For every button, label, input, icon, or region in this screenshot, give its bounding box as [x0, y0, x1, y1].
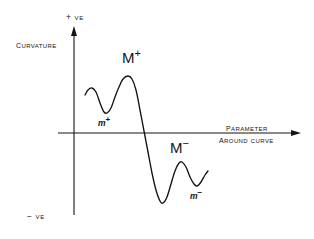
annotation-m-minus-base: m [190, 191, 198, 201]
annotation-m-minus-sign: − [198, 188, 203, 197]
y-axis-positive-label: + ve [66, 13, 84, 22]
y-axis-group [71, 26, 77, 215]
annotation-M-minus-sign: − [183, 137, 189, 149]
y-axis-title: Curvature [16, 39, 57, 50]
curvature-curve [85, 76, 208, 203]
y-axis-negative-label: − ve [27, 212, 45, 221]
annotation-M-plus-sign: + [135, 47, 141, 59]
annotation-m-plus-base: m [98, 118, 106, 128]
y-axis-arrowhead [71, 26, 77, 36]
curvature-chart [0, 0, 314, 239]
annotation-minor-minimum-positive: m+ [98, 119, 110, 128]
annotation-M-minus-base: M [170, 139, 183, 156]
annotation-m-plus-sign: + [106, 115, 111, 124]
x-axis-title-line-1: Parameter [226, 122, 268, 133]
annotation-major-maximum: M+ [122, 50, 141, 65]
annotation-M-plus-base: M [122, 49, 135, 66]
annotation-minor-minimum-negative: m− [190, 192, 202, 201]
annotation-major-minimum: M− [170, 140, 189, 155]
x-axis-title-line-2: Around Curve [219, 134, 274, 145]
x-axis-arrowhead [291, 130, 301, 136]
